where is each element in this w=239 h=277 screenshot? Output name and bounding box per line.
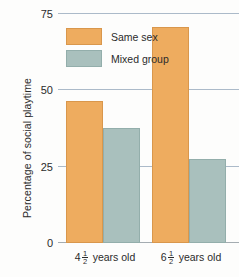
x-label-suffix-0: years old — [90, 251, 136, 263]
legend-label-mixed-group: Mixed group — [111, 53, 169, 65]
legend-item-same-sex: Same sex — [66, 28, 169, 45]
fraction-denominator-0: 2 — [82, 257, 88, 266]
bar-1-1 — [189, 159, 226, 243]
x-label-fraction-0: 12 — [82, 250, 88, 266]
legend-label-same-sex: Same sex — [111, 31, 158, 43]
x-label-whole-1: 6 — [161, 251, 167, 263]
y-tick-label-0: 0 — [47, 237, 53, 249]
fraction-numerator-0: 1 — [82, 250, 88, 258]
legend-swatch-mixed-group — [66, 50, 102, 67]
chart-legend: Same sex Mixed group — [66, 28, 169, 72]
x-axis-group-label-0: 412 years old — [61, 250, 149, 266]
fraction-denominator-1: 2 — [168, 257, 174, 266]
y-tick-label-25: 25 — [41, 161, 53, 173]
y-tick-label-75: 75 — [41, 8, 53, 20]
y-axis-title: Percentage of social playtime — [21, 53, 33, 243]
x-label-fraction-1: 12 — [168, 250, 174, 266]
legend-swatch-same-sex — [66, 28, 102, 45]
gridline-75 — [58, 13, 239, 14]
bar-0-0 — [66, 101, 103, 243]
bar-chart-figure: Percentage of social playtime 0255075 41… — [0, 0, 239, 277]
legend-item-mixed-group: Mixed group — [66, 50, 169, 67]
fraction-numerator-1: 1 — [168, 250, 174, 258]
gridline-50 — [58, 89, 239, 90]
x-axis-group-label-1: 612 years old — [147, 250, 235, 266]
y-tick-label-50: 50 — [41, 84, 53, 96]
x-label-suffix-1: years old — [176, 251, 222, 263]
x-label-whole-0: 4 — [75, 251, 81, 263]
bar-0-1 — [103, 128, 140, 243]
